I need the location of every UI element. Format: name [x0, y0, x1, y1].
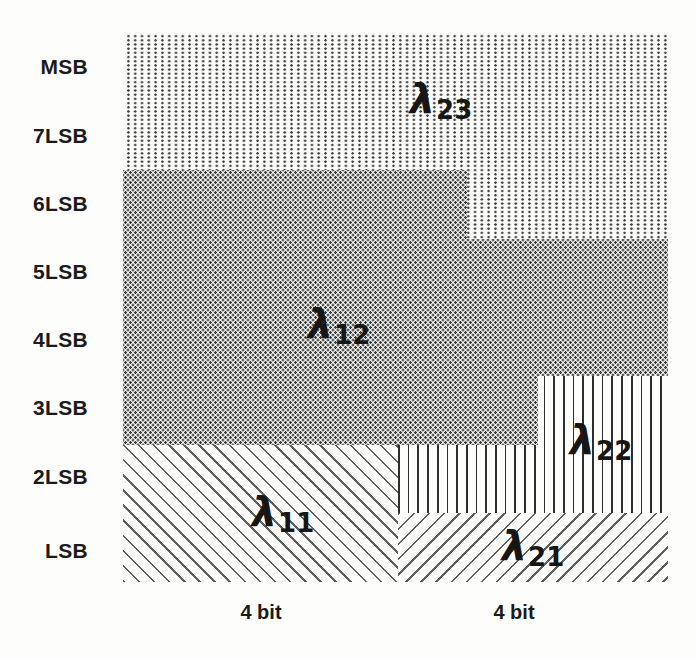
row-label-lsb: LSB — [16, 539, 88, 563]
lambda-22-label: λ22 — [570, 419, 633, 464]
bit-allocation-diagram: λ23 λ12 λ22 λ11 λ21 MSB 7LSB 6LSB 5LSB 4… — [0, 0, 696, 658]
row-label-6lsb: 6LSB — [16, 192, 88, 216]
row-label-5lsb: 5LSB — [16, 260, 88, 284]
lambda-symbol: λ — [502, 525, 527, 567]
lambda-subscript: 23 — [436, 97, 472, 123]
lambda-symbol: λ — [308, 303, 333, 345]
row-label-3lsb: 3LSB — [16, 396, 88, 420]
row-label-4lsb: 4LSB — [16, 328, 88, 352]
lambda-subscript: 21 — [528, 544, 564, 570]
lambda-23-label: λ23 — [410, 78, 473, 123]
lambda-subscript: 11 — [278, 510, 314, 536]
lambda-subscript: 12 — [334, 322, 370, 348]
bit-width-label-left: 4 bit — [240, 601, 281, 624]
lambda-symbol: λ — [252, 491, 277, 533]
row-label-7lsb: 7LSB — [16, 124, 88, 148]
lambda-12-label: λ12 — [308, 303, 371, 348]
lambda-11-label: λ11 — [252, 491, 315, 536]
bit-width-label-right: 4 bit — [493, 601, 534, 624]
row-label-2lsb: 2LSB — [16, 465, 88, 489]
lambda-symbol: λ — [410, 78, 435, 120]
row-label-msb: MSB — [16, 55, 88, 79]
lambda-symbol: λ — [570, 419, 595, 461]
lambda-subscript: 22 — [596, 438, 632, 464]
lambda-21-label: λ21 — [502, 525, 565, 570]
